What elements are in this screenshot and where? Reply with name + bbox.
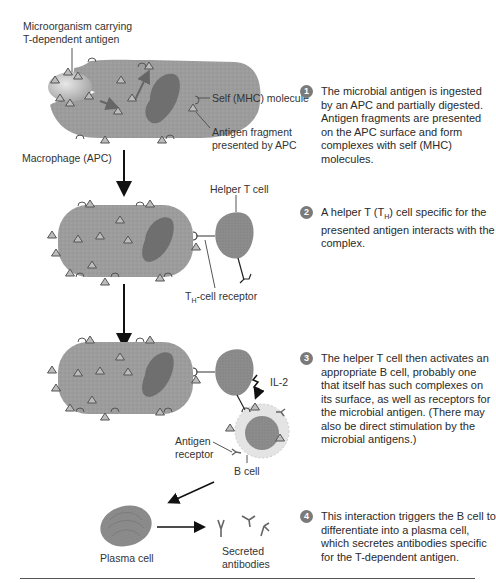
label-antigen-fragment: Antigen fragment bbox=[212, 126, 292, 139]
step-number-badge: 1 bbox=[300, 85, 313, 98]
step-text: A helper T (TH) cell specific for the pr… bbox=[321, 206, 496, 251]
step-text: The microbial antigen is ingested by an … bbox=[321, 85, 496, 166]
label-antigen-receptor-2: receptor bbox=[175, 448, 214, 461]
label-macrophage: Macrophage (APC) bbox=[22, 152, 112, 165]
label-microorganism-2: T-dependent antigen bbox=[23, 33, 119, 46]
label-microorganism: Microorganism carrying bbox=[23, 20, 132, 33]
helper-t-cell-3 bbox=[215, 349, 259, 410]
macrophage-apc-2 bbox=[48, 200, 216, 285]
step-text: This interaction triggers the B cell to … bbox=[321, 510, 496, 564]
arrow-to-plasma-cell bbox=[170, 482, 214, 502]
step-number-badge: 4 bbox=[300, 510, 313, 523]
b-cell bbox=[213, 403, 289, 463]
label-self-mhc: Self (MHC) molecule bbox=[212, 92, 309, 105]
label-secreted: Secreted bbox=[222, 545, 264, 558]
secreted-antibodies bbox=[218, 516, 269, 537]
helper-t-cell-2 bbox=[205, 195, 254, 288]
label-antigen-receptor: Antigen bbox=[175, 435, 211, 448]
step-3: 3 The helper T cell then activates an ap… bbox=[302, 352, 496, 447]
plasma-cell bbox=[96, 500, 157, 552]
il2-signal-arrow bbox=[253, 375, 259, 397]
label-il2: IL-2 bbox=[270, 376, 288, 389]
label-th-cell-receptor: TH-cell receptor bbox=[185, 290, 257, 307]
step-text: The helper T cell then activates an appr… bbox=[321, 352, 496, 447]
step-number-badge: 2 bbox=[300, 206, 313, 219]
step-1: 1 The microbial antigen is ingested by a… bbox=[302, 85, 496, 166]
label-helper-t-cell: Helper T cell bbox=[210, 183, 269, 196]
label-secreted-2: antibodies bbox=[222, 558, 270, 571]
label-plasma-cell: Plasma cell bbox=[100, 552, 154, 565]
label-antigen-fragment-2: presented by APC bbox=[212, 139, 297, 152]
step-number-badge: 3 bbox=[300, 352, 313, 365]
macrophage-apc-3 bbox=[48, 336, 216, 420]
step-2: 2 A helper T (TH) cell specific for the … bbox=[302, 206, 496, 251]
bottom-divider bbox=[20, 578, 475, 579]
label-b-cell: B cell bbox=[234, 465, 260, 478]
step-4: 4 This interaction triggers the B cell t… bbox=[302, 510, 496, 564]
